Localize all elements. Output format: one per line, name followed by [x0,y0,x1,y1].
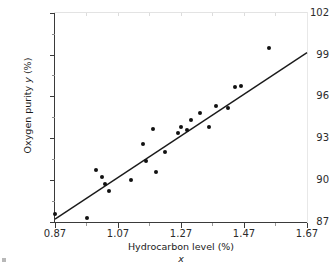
data-point [53,212,57,216]
data-point [85,216,89,220]
scatter-plot-figure: 102 99 96 93 90 87 0.87 1.07 1.27 1.47 1… [0,0,329,267]
data-point [233,85,237,89]
data-point [154,170,158,174]
data-point [239,84,243,88]
data-point [176,131,180,135]
regression-line [0,0,329,267]
data-point [267,46,271,50]
data-point [189,118,193,122]
data-point [129,178,133,182]
data-point [107,189,111,193]
data-point [151,127,155,131]
